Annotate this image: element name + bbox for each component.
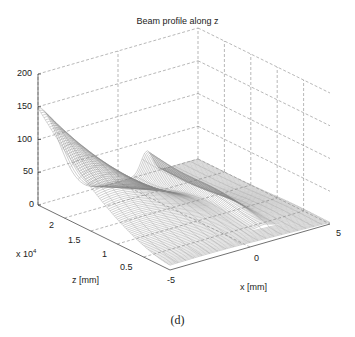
surface-mesh (38, 108, 330, 265)
grid-lines (38, 28, 330, 257)
z-tick-200: 200 (17, 68, 32, 78)
z-tick-150: 150 (17, 101, 32, 111)
x-tick-0: 0 (254, 253, 259, 263)
y-tick-0.5: 0.5 (120, 262, 133, 272)
chart-title: Beam profile along z (0, 16, 355, 26)
y-tick-1.5: 1.5 (68, 235, 81, 245)
z-tick-100: 100 (17, 134, 32, 144)
figure-caption: (d) (0, 313, 355, 328)
x-tick-5: 5 (336, 228, 341, 238)
z-axis-label: z [mm] (72, 275, 99, 285)
y-tick-2: 2 (49, 220, 54, 230)
x-tick-minus5: -5 (167, 275, 175, 285)
z-tick-50: 50 (23, 166, 33, 176)
y-tick-1: 1 (102, 249, 107, 259)
z-tick-0: 0 (29, 199, 34, 209)
surface-plot (0, 0, 355, 337)
y-multiplier: x 104 (16, 248, 36, 259)
x-axis-label: x [mm] (240, 282, 267, 292)
